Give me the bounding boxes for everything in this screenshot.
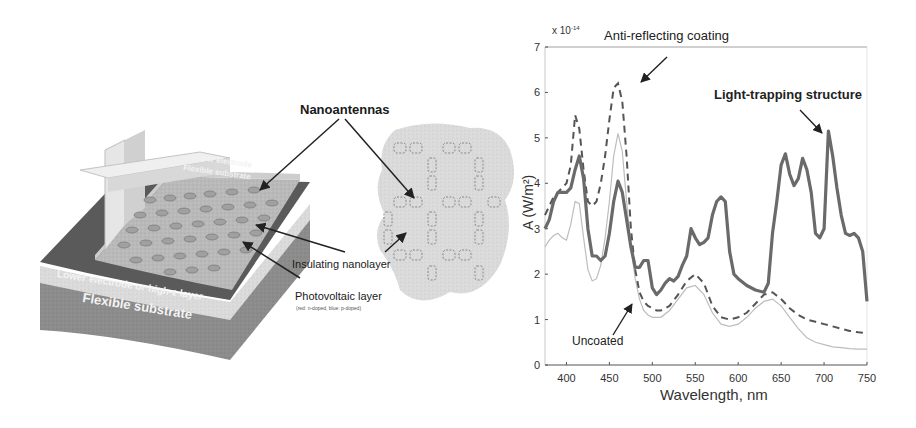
x-tick-label: 500 bbox=[643, 372, 661, 384]
y-tick-label: 5 bbox=[534, 132, 540, 144]
y-tick-label: 0 bbox=[534, 359, 540, 371]
x-tick-label: 650 bbox=[772, 372, 790, 384]
y-tick-label: 1 bbox=[534, 314, 540, 326]
label-photovoltaic-sublabel: (red: n-doped, blue: p-doped) bbox=[296, 305, 361, 311]
label-insulating-nanolayer: Insulating nanolayer bbox=[292, 258, 390, 270]
series-anti-reflecting-coating bbox=[545, 83, 867, 333]
annotation-anti-reflecting: Anti-reflecting coating bbox=[604, 28, 729, 43]
series-light-trapping-structure bbox=[545, 131, 867, 301]
y-multiplier-label: x 10-14 bbox=[552, 25, 580, 36]
x-tick-label: 450 bbox=[600, 372, 618, 384]
x-tick-label: 600 bbox=[729, 372, 747, 384]
annotation-uncoated: Uncoated bbox=[572, 334, 623, 348]
y-multiplier-base: x 10 bbox=[552, 25, 571, 36]
device-schematic: Nanoantennas Insulating nanolayer Photov… bbox=[0, 0, 520, 428]
nanoantenna-closeup bbox=[377, 123, 514, 300]
y-tick-label: 6 bbox=[534, 86, 540, 98]
annotation-light-trapping: Light-trapping structure bbox=[714, 87, 862, 102]
absorption-chart: 40045050055060065070075001234567 x 10-14… bbox=[520, 0, 916, 428]
chart-plot-area: 40045050055060065070075001234567 bbox=[520, 0, 916, 428]
x-tick-label: 400 bbox=[557, 372, 575, 384]
y-tick-label: 2 bbox=[534, 268, 540, 280]
x-axis-label: Wavelength, nm bbox=[660, 386, 768, 403]
x-tick-label: 750 bbox=[858, 372, 876, 384]
device-schematic-drawing bbox=[0, 0, 520, 428]
y-multiplier-exponent: -14 bbox=[571, 25, 580, 31]
x-tick-label: 550 bbox=[686, 372, 704, 384]
label-nanoantennas: Nanoantennas bbox=[300, 102, 390, 117]
y-tick-label: 7 bbox=[534, 41, 540, 53]
y-axis-label: A (W/m²) bbox=[520, 175, 536, 230]
label-photovoltaic-layer: Photovoltaic layer bbox=[295, 290, 382, 302]
chart-series bbox=[545, 83, 867, 349]
x-tick-label: 700 bbox=[815, 372, 833, 384]
